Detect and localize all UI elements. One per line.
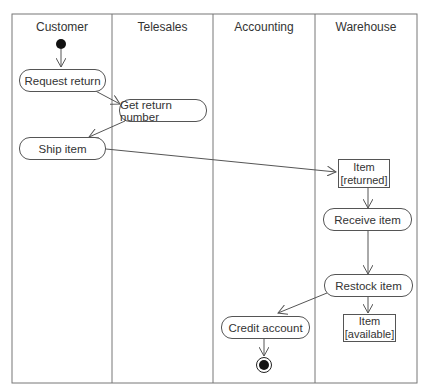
object-name: Item — [353, 161, 374, 174]
object-item-available[interactable]: Item [available] — [343, 314, 396, 342]
edge-restock-credit — [278, 293, 327, 313]
lane-title-warehouse: Warehouse — [315, 20, 417, 34]
activity-request-return[interactable]: Request return — [19, 69, 106, 92]
object-state: [returned] — [340, 174, 387, 187]
object-state: [available] — [345, 328, 395, 341]
final-node-center — [259, 360, 269, 370]
activity-restock-item[interactable]: Restock item — [324, 274, 413, 297]
activity-ship-item[interactable]: Ship item — [19, 137, 106, 160]
object-name: Item — [359, 315, 380, 328]
initial-node — [56, 39, 66, 49]
lane-title-accounting: Accounting — [213, 20, 315, 34]
edge-ship-itemreturned — [106, 149, 336, 172]
activity-credit-account[interactable]: Credit account — [221, 316, 310, 339]
lane-title-customer: Customer — [12, 20, 112, 34]
edge-getnumber-ship — [89, 121, 125, 137]
lane-title-telesales: Telesales — [112, 20, 213, 34]
object-item-returned[interactable]: Item [returned] — [338, 159, 390, 188]
activity-receive-item[interactable]: Receive item — [323, 208, 412, 231]
activity-get-return-number[interactable]: Get return number — [119, 99, 207, 122]
